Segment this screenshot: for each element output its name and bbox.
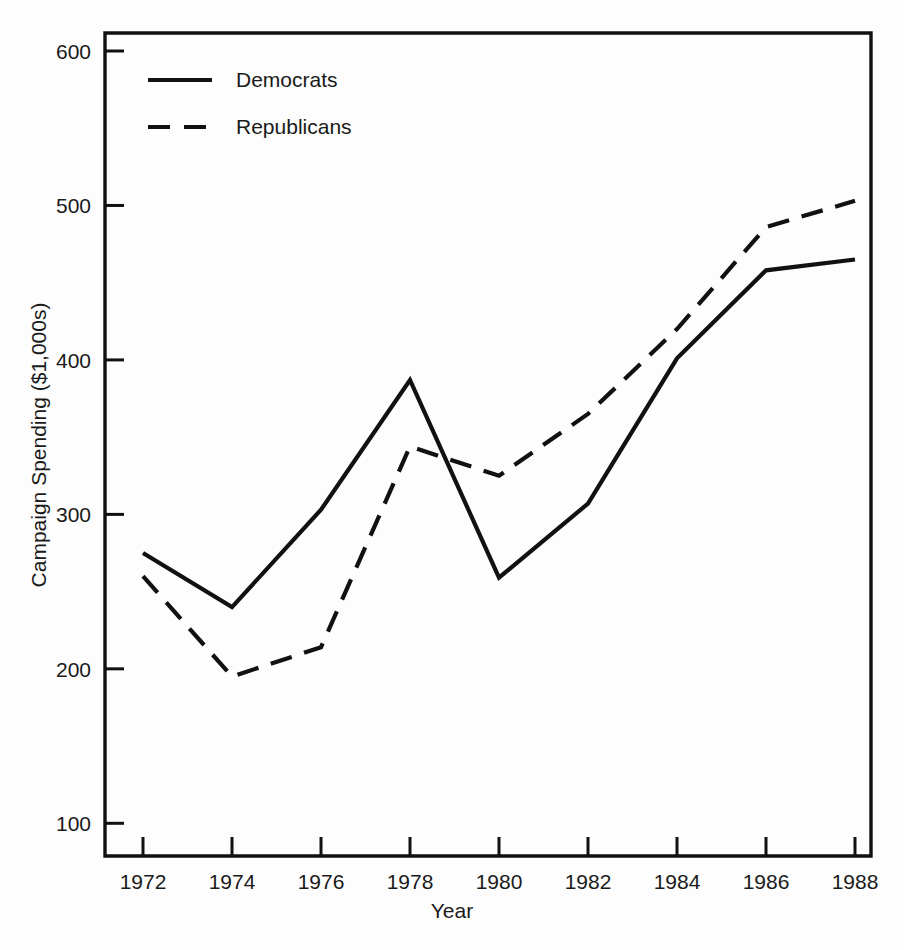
y-axis-tick-labels: 100200300400500600 bbox=[56, 40, 91, 835]
series-line-republicans bbox=[143, 201, 855, 677]
x-tick-label: 1986 bbox=[743, 870, 790, 893]
y-axis-ticks bbox=[105, 51, 124, 823]
x-tick-label: 1982 bbox=[565, 870, 612, 893]
y-tick-label: 300 bbox=[56, 503, 91, 526]
legend-label-republicans: Republicans bbox=[236, 115, 352, 138]
series-group bbox=[143, 201, 855, 677]
plot-border bbox=[105, 33, 871, 856]
x-tick-label: 1974 bbox=[209, 870, 256, 893]
y-tick-label: 400 bbox=[56, 349, 91, 372]
x-tick-label: 1972 bbox=[120, 870, 167, 893]
x-axis-title: Year bbox=[431, 899, 473, 922]
x-tick-label: 1976 bbox=[298, 870, 345, 893]
y-tick-label: 500 bbox=[56, 194, 91, 217]
x-tick-label: 1978 bbox=[387, 870, 434, 893]
y-tick-label: 600 bbox=[56, 40, 91, 63]
y-axis-title: Campaign Spending ($1,000s) bbox=[27, 303, 50, 588]
x-tick-label: 1980 bbox=[476, 870, 523, 893]
chart-legend: Democrats Republicans bbox=[148, 68, 352, 138]
series-line-democrats bbox=[143, 260, 855, 608]
x-tick-label: 1988 bbox=[832, 870, 879, 893]
line-chart: 100200300400500600 197219741976197819801… bbox=[0, 0, 904, 950]
x-axis-tick-labels: 197219741976197819801982198419861988 bbox=[120, 870, 879, 893]
x-tick-label: 1984 bbox=[654, 870, 701, 893]
legend-label-democrats: Democrats bbox=[236, 68, 338, 91]
y-tick-label: 100 bbox=[56, 812, 91, 835]
chart-container: 100200300400500600 197219741976197819801… bbox=[0, 0, 904, 950]
x-axis-ticks bbox=[143, 837, 855, 856]
axis-frame bbox=[105, 33, 871, 856]
y-tick-label: 200 bbox=[56, 658, 91, 681]
